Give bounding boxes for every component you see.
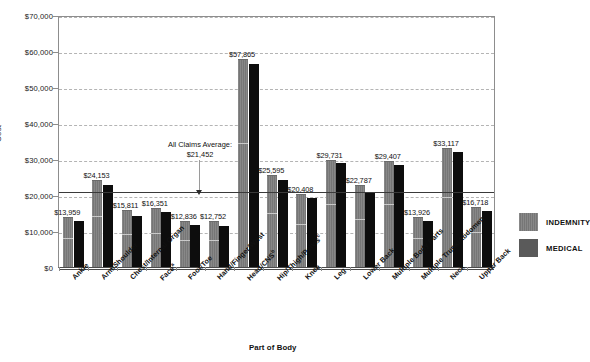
bar-inner-rule — [355, 219, 365, 220]
y-axis-tick-label: $50,000 — [0, 84, 53, 93]
x-axis-tick-mark — [59, 267, 60, 271]
y-axis-tick-label: $70,000 — [0, 12, 53, 21]
bar-inner-rule — [92, 216, 102, 217]
legend-swatch-medical-icon — [519, 239, 538, 257]
bar-inner-rule — [442, 197, 452, 198]
y-axis-tick-label: $0 — [0, 264, 53, 273]
bar-data-label: $25,595 — [258, 166, 284, 175]
bar-inner-rule — [209, 240, 219, 241]
gridline — [59, 89, 494, 90]
legend-label-indemnity: INDEMNITY — [546, 218, 590, 227]
bar-indemnity — [92, 180, 102, 267]
annotation-value: $21,452 — [148, 150, 252, 160]
annotation-leader-line — [199, 160, 200, 192]
bar-indemnity — [238, 59, 248, 267]
all-claims-average-line — [59, 192, 494, 193]
bar-inner-rule — [151, 233, 161, 234]
bar-indemnity — [326, 160, 336, 267]
legend-swatch-indemnity-icon — [519, 213, 538, 231]
bar-data-label: $12,752 — [200, 212, 226, 221]
bar-data-label: $12,836 — [171, 212, 197, 221]
y-axis-tick-label: $40,000 — [0, 120, 53, 129]
bar-data-label: $13,959 — [54, 208, 80, 217]
bar-medical — [103, 185, 113, 267]
bar-inner-rule — [326, 204, 336, 205]
bar-inner-rule — [63, 238, 73, 239]
plot-area — [58, 16, 495, 268]
y-axis-tick-label: $10,000 — [0, 228, 53, 237]
bar-data-label: $20,408 — [287, 185, 313, 194]
y-axis-tick-label: $60,000 — [0, 48, 53, 57]
bar-data-label: $29,407 — [375, 152, 401, 161]
annotation-label: All Claims Average: — [148, 140, 252, 150]
bar-medical — [336, 163, 346, 267]
bar-data-label: $24,153 — [83, 171, 109, 180]
x-axis-tick-mark — [467, 267, 468, 271]
bar-medical — [365, 192, 375, 267]
y-axis-tick-label: $20,000 — [0, 192, 53, 201]
bar-data-label: $29,731 — [317, 151, 343, 160]
bar-data-label: $16,351 — [142, 199, 168, 208]
bar-inner-rule — [413, 238, 423, 239]
bar-data-label: $15,811 — [113, 201, 138, 210]
bar-data-label: $13,926 — [404, 208, 430, 217]
annotation-text: All Claims Average: $21,452 — [148, 140, 252, 160]
bar-medical — [278, 180, 288, 267]
bar-data-label: $57,865 — [229, 50, 255, 59]
gridline — [59, 53, 494, 54]
bar-data-label: $33,117 — [433, 139, 458, 148]
gridline — [59, 17, 494, 18]
x-axis-tick-mark — [350, 267, 351, 271]
bar-inner-rule — [122, 234, 132, 235]
bar-inner-rule — [384, 204, 394, 205]
annotation-arrow-icon — [196, 190, 202, 195]
bar-data-label: $22,787 — [346, 176, 372, 185]
bar-inner-rule — [296, 224, 306, 225]
gridline — [59, 161, 494, 162]
legend-label-medical: MEDICAL — [546, 244, 583, 253]
y-axis-tick-label: $30,000 — [0, 156, 53, 165]
bar-inner-rule — [180, 240, 190, 241]
bar-indemnity — [63, 217, 73, 267]
bar-medical — [74, 221, 84, 267]
x-axis-title: Part of Body — [249, 343, 297, 352]
bar-indemnity — [355, 185, 365, 267]
bar-data-label: $16,718 — [462, 198, 488, 207]
gridline — [59, 125, 494, 126]
bar-inner-rule — [267, 213, 277, 214]
